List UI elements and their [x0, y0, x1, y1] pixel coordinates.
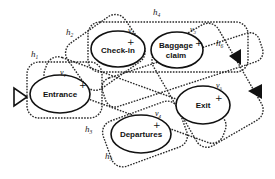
hyperedge-label-h5: h5 — [105, 151, 113, 162]
vertex-label-v1: v1 — [60, 68, 66, 78]
exit-triangle-icon — [248, 84, 262, 99]
node-label-departures: Departures — [120, 130, 163, 139]
node-label-baggage: Baggage — [159, 41, 193, 50]
plus-icon: + — [215, 93, 223, 103]
node-departures: Departures + v4 — [111, 109, 171, 153]
node-entrance: Entrance + v1 — [30, 68, 90, 113]
hyperedge-label-h2: h2 — [66, 27, 74, 38]
exit-triangle-icon — [229, 49, 241, 65]
hypergraph-diagram: Entrance + v1 Check-in + v2 Baggage clai… — [0, 0, 275, 179]
node-label-claim: claim — [166, 51, 186, 60]
node-check-in: Check-in + v2 — [91, 26, 145, 67]
hyperedge-label-h4: h4 — [153, 7, 161, 18]
vertex-label-v3: v3 — [190, 25, 197, 35]
entry-triangle-icon — [14, 88, 27, 106]
vertex-label-v4: v4 — [155, 109, 162, 119]
plus-icon: + — [153, 120, 161, 130]
node-label-entrance: Entrance — [43, 90, 78, 99]
plus-icon: + — [127, 37, 135, 47]
vertex-label-v2: v2 — [128, 26, 135, 36]
plus-icon: + — [79, 80, 87, 90]
node-label-check-in: Check-in — [101, 46, 135, 55]
node-exit: Exit + v5 — [176, 81, 230, 124]
vertex-label-v5: v5 — [216, 81, 223, 91]
hyperedge-label-h1: h1 — [31, 49, 39, 60]
node-label-exit: Exit — [196, 101, 211, 110]
plus-icon: + — [195, 38, 203, 48]
hyperedge-label-h6: h6 — [216, 38, 224, 49]
node-baggage-claim: Baggage claim + v3 — [151, 25, 203, 68]
hyperedge-label-h3: h3 — [85, 124, 93, 135]
